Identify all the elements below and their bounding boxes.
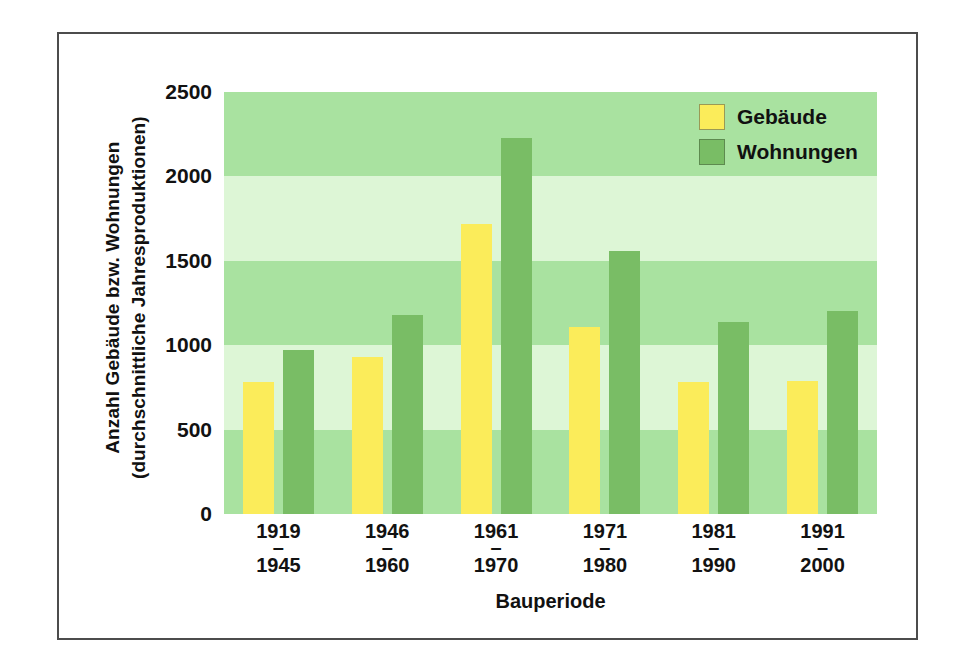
bar-group bbox=[442, 92, 551, 514]
period-dash: – bbox=[224, 543, 333, 552]
period-dash: – bbox=[333, 543, 442, 552]
period-dash: – bbox=[442, 543, 551, 552]
bar-wohnungen[interactable] bbox=[827, 311, 858, 514]
legend-item-gebaeude[interactable]: Gebäude bbox=[699, 104, 858, 130]
legend-item-wohnungen[interactable]: Wohnungen bbox=[699, 139, 858, 165]
y-axis-tick-label: 500 bbox=[177, 418, 212, 442]
chart-legend: GebäudeWohnungen bbox=[699, 104, 858, 165]
x-axis-tick-label: 1946–1960 bbox=[333, 520, 442, 577]
bar-gebaeude[interactable] bbox=[352, 357, 383, 514]
y-axis-tick-label: 2000 bbox=[165, 164, 212, 188]
bar-gebaeude[interactable] bbox=[678, 382, 709, 514]
y-axis-tick-label: 2500 bbox=[165, 80, 212, 104]
legend-label-gebaeude: Gebäude bbox=[737, 105, 827, 129]
legend-swatch-gebaeude bbox=[699, 104, 725, 130]
period-dash: – bbox=[768, 543, 877, 552]
y-axis-title: Anzahl Gebäude bzw. Wohnungen (durchschn… bbox=[100, 88, 151, 508]
x-axis-tick-label: 1991–2000 bbox=[768, 520, 877, 577]
bar-wohnungen[interactable] bbox=[283, 350, 314, 514]
x-axis-tick-labels: 1919–19451946–19601961–19701971–19801981… bbox=[224, 520, 877, 577]
bar-wohnungen[interactable] bbox=[718, 322, 749, 514]
period-dash: – bbox=[550, 543, 659, 552]
period-end: 1970 bbox=[474, 554, 519, 576]
period-end: 1990 bbox=[691, 554, 736, 576]
y-axis-tick-label: 0 bbox=[200, 502, 212, 526]
x-axis-title: Bauperiode bbox=[224, 590, 877, 613]
bar-group bbox=[550, 92, 659, 514]
bar-group bbox=[333, 92, 442, 514]
period-dash: – bbox=[659, 543, 768, 552]
y-axis-title-line-2: (durchschnittliche Jahresproduktionen) bbox=[126, 88, 152, 508]
y-axis-tick-label: 1500 bbox=[165, 249, 212, 273]
bar-gebaeude[interactable] bbox=[243, 382, 274, 514]
legend-label-wohnungen: Wohnungen bbox=[737, 140, 858, 164]
bar-wohnungen[interactable] bbox=[392, 315, 423, 514]
bar-group bbox=[224, 92, 333, 514]
y-axis-title-line-1: Anzahl Gebäude bzw. Wohnungen bbox=[100, 88, 126, 508]
bar-wohnungen[interactable] bbox=[501, 138, 532, 514]
period-end: 2000 bbox=[800, 554, 845, 576]
bar-gebaeude[interactable] bbox=[787, 381, 818, 514]
bar-gebaeude[interactable] bbox=[461, 224, 492, 514]
x-axis-tick-label: 1919–1945 bbox=[224, 520, 333, 577]
x-axis-tick-label: 1981–1990 bbox=[659, 520, 768, 577]
x-axis-tick-label: 1961–1970 bbox=[442, 520, 551, 577]
bar-gebaeude[interactable] bbox=[569, 327, 600, 514]
y-axis-tick-label: 1000 bbox=[165, 333, 212, 357]
x-axis-tick-label: 1971–1980 bbox=[550, 520, 659, 577]
legend-swatch-wohnungen bbox=[699, 139, 725, 165]
bar-wohnungen[interactable] bbox=[609, 251, 640, 514]
period-end: 1960 bbox=[365, 554, 410, 576]
figure-frame: Anzahl Gebäude bzw. Wohnungen (durchschn… bbox=[57, 32, 918, 640]
period-end: 1980 bbox=[583, 554, 628, 576]
period-end: 1945 bbox=[256, 554, 301, 576]
